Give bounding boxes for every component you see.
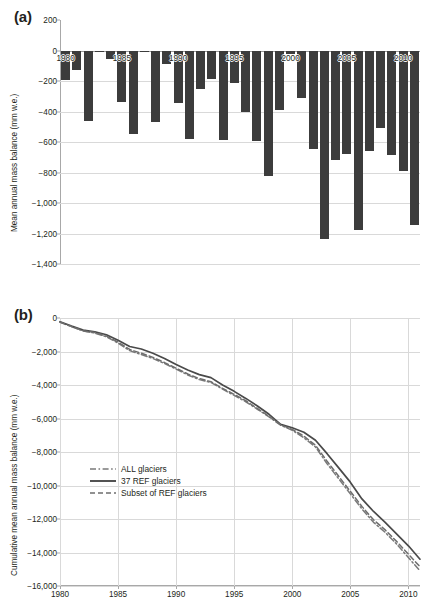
legend-label: Subset of REF glaciers: [121, 488, 207, 498]
gridline: [60, 264, 420, 265]
x-tick-mark: [408, 586, 409, 589]
bar: [196, 51, 205, 90]
legend-line-icon: [90, 489, 116, 497]
series-line: [60, 322, 420, 567]
legend-label: 37 REF glaciers: [121, 476, 181, 486]
y-tick-label: −12,000: [27, 515, 57, 524]
bar: [376, 51, 385, 128]
panel-b-plot-area: 0−2,000−4,000−6,000−8,000−10,000−12,000−…: [60, 318, 420, 586]
x-tick-label: 2010: [394, 54, 412, 63]
x-tick-label: 2000: [283, 590, 301, 599]
y-tick-label: −1,400: [32, 260, 57, 269]
bar: [387, 51, 396, 155]
x-tick-label: 1995: [225, 54, 243, 63]
x-tick-label: 1980: [57, 54, 75, 63]
bar: [95, 51, 104, 53]
y-tick-mark: [57, 233, 60, 234]
x-tick-mark: [118, 586, 119, 589]
y-tick-label: −200: [39, 77, 57, 86]
series-line: [60, 322, 420, 560]
bar: [410, 51, 419, 226]
bar: [140, 51, 149, 52]
y-tick-label: −4,000: [32, 381, 57, 390]
y-tick-label: −600: [39, 138, 57, 147]
bar: [185, 51, 194, 139]
x-tick-label: 1990: [167, 590, 185, 599]
y-tick-mark: [57, 142, 60, 143]
gridline: [60, 203, 420, 204]
x-tick-mark: [292, 586, 293, 589]
x-tick-mark: [60, 586, 61, 589]
x-tick-label: 1985: [109, 590, 127, 599]
bar: [207, 51, 216, 79]
y-tick-label: 200: [43, 16, 57, 25]
x-tick-label: 2005: [341, 590, 359, 599]
bar: [129, 51, 138, 134]
panel-b-series-lines: [60, 318, 420, 586]
panel-a-label: (a): [14, 8, 32, 25]
x-tick-label: 1995: [225, 590, 243, 599]
y-tick-mark: [57, 203, 60, 204]
y-tick-label: −1,000: [32, 199, 57, 208]
bar: [331, 51, 340, 160]
y-tick-mark: [57, 50, 60, 51]
legend-label: ALL glaciers: [121, 464, 167, 474]
y-tick-mark: [57, 111, 60, 112]
x-tick-mark: [350, 586, 351, 589]
panel-b-label: (b): [14, 306, 33, 323]
figure-glacier-mass-balance: (a) Mean annual mass balance (mm w.e.) 2…: [0, 0, 424, 614]
legend-item: ALL glaciers: [90, 463, 207, 475]
bar: [354, 51, 363, 231]
legend-line-icon: [90, 477, 116, 485]
y-tick-mark: [57, 20, 60, 21]
y-tick-label: −1,200: [32, 229, 57, 238]
x-tick-label: 1990: [169, 54, 187, 63]
bar: [151, 51, 160, 123]
bar: [342, 51, 351, 155]
x-tick-label: 1985: [113, 54, 131, 63]
panel-a-y-axis-label: Mean annual mass balance (mm w.e.): [10, 94, 19, 232]
bar: [252, 51, 261, 142]
gridline: [60, 586, 420, 587]
y-tick-label: −10,000: [27, 481, 57, 490]
bar: [219, 51, 228, 141]
y-tick-label: −14,000: [27, 548, 57, 557]
bar: [399, 51, 408, 171]
gridline: [60, 173, 420, 174]
x-tick-mark: [234, 586, 235, 589]
panel-b: (b) Cumulative mean annual mass balance …: [0, 300, 424, 614]
bar: [84, 51, 93, 121]
y-tick-label: −6,000: [32, 414, 57, 423]
bar: [365, 51, 374, 152]
x-tick-label: 2005: [338, 54, 356, 63]
legend-line-icon: [90, 465, 116, 473]
x-tick-label: 2010: [399, 590, 417, 599]
legend-item: Subset of REF glaciers: [90, 487, 207, 499]
x-tick-label: 1980: [51, 590, 69, 599]
bar: [320, 51, 329, 239]
series-line: [60, 322, 420, 571]
panel-b-legend: ALL glaciers37 REF glaciersSubset of REF…: [90, 463, 207, 499]
y-tick-label: −400: [39, 107, 57, 116]
y-tick-mark: [57, 172, 60, 173]
y-tick-label: −2,000: [32, 347, 57, 356]
bar: [309, 51, 318, 149]
bar: [264, 51, 273, 176]
gridline: [60, 234, 420, 235]
y-tick-label: −8,000: [32, 448, 57, 457]
panel-b-y-axis-label: Cumulative mean annual mass balance (mm …: [10, 394, 19, 576]
x-tick-mark: [176, 586, 177, 589]
y-tick-mark: [57, 81, 60, 82]
y-tick-mark: [57, 264, 60, 265]
panel-a-plot-area: 2000−200−400−600−800−1,000−1,200−1,400 1…: [60, 20, 420, 264]
panel-a: (a) Mean annual mass balance (mm w.e.) 2…: [0, 0, 424, 300]
legend-item: 37 REF glaciers: [90, 475, 207, 487]
y-tick-label: −800: [39, 168, 57, 177]
x-tick-label: 2000: [282, 54, 300, 63]
